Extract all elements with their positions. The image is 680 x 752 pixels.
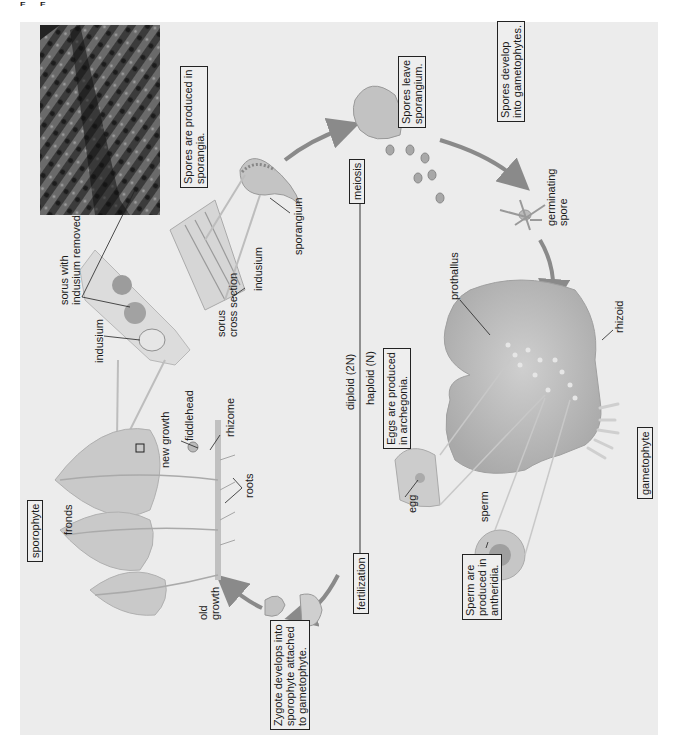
caption-spores-produced: Spores are produced in sporangia.	[180, 66, 208, 188]
fern-life-cycle-illustration	[0, 0, 680, 752]
label-sporangium: sporangium	[292, 198, 304, 255]
label-rhizoid: rhizoid	[613, 301, 625, 333]
caption-spores-develop: Spores develop into gametophytes.	[497, 21, 525, 122]
label-roots: roots	[243, 474, 255, 498]
germinating-spore-illustration	[500, 200, 545, 230]
label-fronds: fronds	[62, 504, 74, 535]
sorus-micrograph	[40, 25, 160, 215]
prothallus-illustration	[444, 280, 618, 473]
label-rhizome: rhizome	[224, 398, 236, 437]
label-indusium-leaf: indusium	[93, 319, 105, 363]
caption-sperm-produced: Sperm are produced in antheridia.	[462, 555, 502, 621]
label-new-growth: new growth	[159, 412, 171, 468]
stage-label-gametophyte: gametophyte	[637, 427, 653, 499]
label-sorus-cross-section: sorus cross section	[215, 273, 239, 337]
ploidy-diploid-label: diploid (2N)	[344, 354, 356, 410]
label-old-growth: old growth	[197, 587, 221, 620]
caption-spores-leave: Spores leave sporangium.	[398, 56, 426, 128]
sporangium-illustration	[240, 159, 300, 205]
label-fiddlehead: fiddlehead	[183, 390, 195, 441]
stage-label-meiosis: meiosis	[349, 159, 365, 204]
label-germinating-spore: germinating spore	[545, 169, 569, 226]
label-sorus-with-indusium-removed: sorus with indusium removed	[58, 215, 82, 305]
caption-eggs-produced: Eggs are produced in archegonia.	[383, 348, 411, 449]
stage-label-fertilization: fertilization	[353, 553, 369, 614]
stage-label-sporophyte: sporophyte	[27, 500, 43, 562]
label-indusium-section: indusium	[252, 247, 264, 291]
ploidy-haploid-label: haploid (N)	[364, 351, 376, 405]
label-sperm: sperm	[478, 491, 490, 522]
label-prothallus: prothallus	[448, 252, 460, 300]
label-egg: egg	[406, 495, 418, 513]
caption-zygote-develops: Zygote develops into sporophyte attached…	[270, 620, 310, 730]
